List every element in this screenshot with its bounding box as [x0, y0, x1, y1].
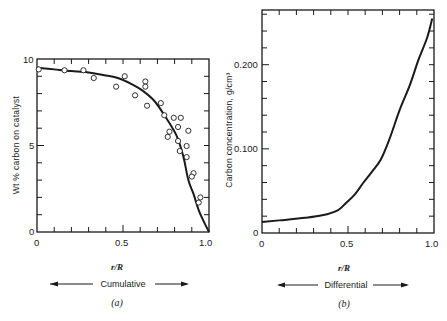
panel-a-fitted-curve	[37, 68, 209, 232]
arrow-left-icon	[277, 283, 285, 288]
data-point-circle-icon	[144, 103, 149, 108]
panel-a-ytick-5: 5	[29, 140, 34, 151]
data-point-circle-icon	[132, 93, 137, 98]
data-point-circle-icon	[162, 113, 167, 118]
data-point-circle-icon	[175, 138, 180, 143]
data-point-circle-icon	[167, 129, 172, 134]
data-point-circle-icon	[184, 154, 189, 159]
panel-b-plot-frame	[262, 10, 434, 233]
panel-a-cumulative: 10 5 0 0 0.5 1.0 Wt % carbon on catalyst…	[11, 54, 212, 309]
panel-b-xtick-0: 0	[259, 238, 264, 249]
data-point-circle-icon	[177, 148, 182, 153]
panel-a-range-label: Cumulative	[100, 279, 145, 289]
data-point-circle-icon	[114, 84, 119, 89]
data-point-circle-icon	[175, 124, 180, 129]
panel-a-xtick-0.5: 0.5	[115, 237, 128, 248]
panel-b-curve	[262, 18, 432, 222]
data-point-circle-icon	[189, 174, 194, 179]
data-point-circle-icon	[171, 115, 176, 120]
data-point-circle-icon	[143, 79, 148, 84]
series-line	[37, 68, 209, 232]
panel-a-xtick-1.0: 1.0	[199, 237, 212, 248]
data-point-circle-icon	[36, 67, 41, 72]
panel-b-differential: 0.200 0.100 0 0 0.5 1.0 Carbon concentra…	[224, 10, 438, 310]
data-point-circle-icon	[81, 68, 86, 73]
data-point-circle-icon	[143, 84, 148, 89]
panel-b-xtick-0.5: 0.5	[340, 238, 353, 249]
panel-b-x-axis-label: r/R	[338, 263, 350, 273]
arrow-right-icon	[181, 282, 189, 287]
panel-b-range-label: Differential	[325, 280, 368, 290]
panel-a-data-points	[36, 67, 203, 205]
panel-a-x-axis-label: r/R	[111, 262, 123, 272]
arrow-right-icon	[401, 283, 409, 288]
arrow-left-icon	[50, 282, 58, 287]
panel-b-label: (b)	[338, 298, 350, 310]
panel-b-ytick-0: 0	[253, 227, 258, 238]
data-point-circle-icon	[165, 134, 170, 139]
data-point-circle-icon	[184, 143, 189, 148]
data-point-circle-icon	[91, 75, 96, 80]
data-point-circle-icon	[198, 195, 203, 200]
panel-b-ytick-0.200: 0.200	[234, 59, 258, 70]
panel-a-ticks	[37, 59, 209, 232]
panel-a-label: (a)	[111, 297, 123, 309]
panel-b-xtick-1.0: 1.0	[425, 238, 438, 249]
figure: 10 5 0 0 0.5 1.0 Wt % carbon on catalyst…	[0, 0, 447, 321]
data-point-circle-icon	[178, 115, 183, 120]
panel-a-ytick-0: 0	[29, 226, 34, 237]
data-point-circle-icon	[62, 68, 67, 73]
series-line	[262, 18, 432, 222]
data-point-circle-icon	[186, 128, 191, 133]
data-point-circle-icon	[122, 74, 127, 79]
data-point-circle-icon	[158, 101, 163, 106]
panel-b-ticks	[262, 10, 434, 233]
panel-a-plot-frame	[37, 59, 209, 232]
data-point-circle-icon	[196, 200, 201, 205]
panel-a-ytick-10: 10	[23, 54, 34, 65]
panel-a-y-axis-label: Wt % carbon on catalyst	[11, 95, 21, 194]
panel-b-ytick-0.100: 0.100	[234, 143, 258, 154]
panel-b-y-axis-label: Carbon concentration, g/cm³	[224, 72, 234, 187]
panel-a-xtick-0: 0	[34, 237, 39, 248]
